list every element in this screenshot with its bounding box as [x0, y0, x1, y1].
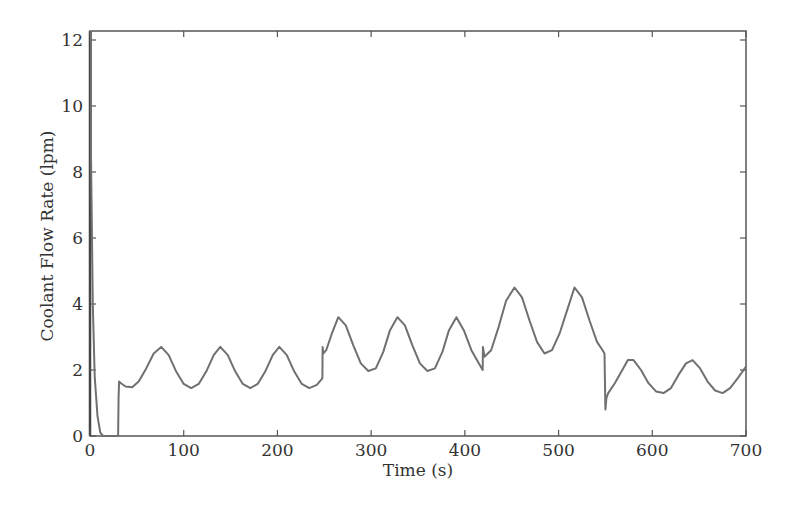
x-tick-label: 500 [542, 440, 574, 460]
y-tick-label: 8 [72, 162, 83, 182]
y-tick-label: 4 [72, 294, 83, 314]
y-tick-label: 10 [61, 96, 83, 116]
y-tick-label: 2 [72, 360, 83, 380]
plot-frame [90, 31, 746, 436]
y-tick-label: 6 [72, 228, 83, 248]
y-tick-label: 12 [61, 30, 83, 50]
line-chart: 0100200300400500600700 024681012 Time (s… [0, 0, 796, 516]
x-tick-label: 400 [449, 440, 481, 460]
x-axis-ticks: 0100200300400500600700 [85, 31, 763, 460]
plot-border [90, 31, 746, 436]
x-tick-label: 200 [261, 440, 293, 460]
coolant-flow-rate-line [91, 31, 746, 436]
x-tick-label: 300 [355, 440, 387, 460]
x-axis-label: Time (s) [383, 460, 453, 480]
x-tick-label: 700 [730, 440, 762, 460]
y-tick-label: 0 [72, 426, 83, 446]
y-axis-ticks: 024681012 [61, 30, 746, 446]
x-tick-label: 100 [167, 440, 199, 460]
x-tick-label: 0 [85, 440, 96, 460]
y-axis-label: Coolant Flow Rate (lpm) [37, 131, 57, 342]
x-tick-label: 600 [636, 440, 668, 460]
